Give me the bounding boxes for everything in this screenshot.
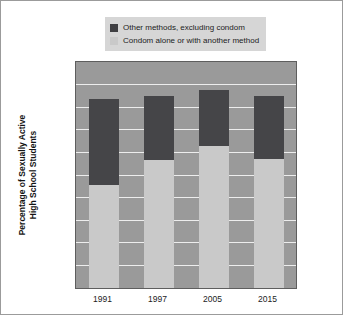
y-axis-title: Percentage of Sexually Active High Schoo… xyxy=(17,115,39,236)
bar-2005 xyxy=(199,90,229,288)
legend-swatch-light xyxy=(110,37,118,45)
x-axis-label-2015: 2015 xyxy=(258,294,277,304)
legend-item-condom: Condom alone or with another method xyxy=(110,34,259,47)
plot-area-container: 0102030405060708090100 1991199720052015 xyxy=(75,61,297,289)
bar-2015 xyxy=(254,96,284,288)
bar-segment-other-methods xyxy=(199,90,229,146)
y-axis-title-line-1: Percentage of Sexually Active xyxy=(17,115,27,236)
x-axis-label-2005: 2005 xyxy=(203,294,222,304)
bar-segment-other-methods xyxy=(144,96,174,160)
bar-1997 xyxy=(144,96,174,288)
x-axis-label-1991: 1991 xyxy=(93,294,112,304)
plot-area: 0102030405060708090100 xyxy=(75,61,297,289)
bar-segment-condom xyxy=(254,159,284,288)
bar-segment-condom xyxy=(89,185,119,288)
x-axis-label-1997: 1997 xyxy=(148,294,167,304)
legend-label-other-methods: Other methods, excluding condom xyxy=(123,23,245,33)
chart-legend: Other methods, excluding condom Condom a… xyxy=(105,17,266,51)
y-axis-title-line-2: High School Students xyxy=(28,131,38,219)
legend-label-condom: Condom alone or with another method xyxy=(123,36,259,46)
legend-item-other-methods: Other methods, excluding condom xyxy=(110,21,259,34)
bar-segment-other-methods xyxy=(254,96,284,160)
bar-segment-condom xyxy=(144,160,174,288)
chart-figure: Other methods, excluding condom Condom a… xyxy=(0,0,343,315)
bar-segment-condom xyxy=(199,146,229,288)
bar-1991 xyxy=(89,99,119,288)
bar-segment-other-methods xyxy=(89,99,119,186)
gridline xyxy=(76,84,296,85)
legend-swatch-dark xyxy=(110,24,118,32)
y-axis-title-container: Percentage of Sexually Active High Schoo… xyxy=(15,61,41,289)
